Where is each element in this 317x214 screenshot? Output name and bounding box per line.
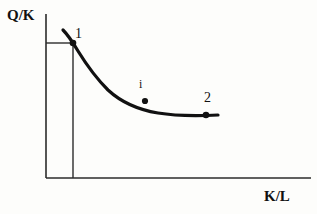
marker-point-2 [203, 112, 210, 119]
figure-canvas: Q/K K/L 1 i 2 [0, 0, 317, 214]
marker-point-i [142, 98, 148, 104]
y-axis-label: Q/K [7, 7, 35, 24]
qk-curve [63, 30, 218, 116]
point-label-1: 1 [75, 26, 82, 42]
x-axis-label: K/L [264, 188, 290, 205]
point-label-i: i [139, 77, 142, 92]
point-label-2: 2 [204, 90, 211, 106]
chart-plot-area [0, 0, 317, 214]
